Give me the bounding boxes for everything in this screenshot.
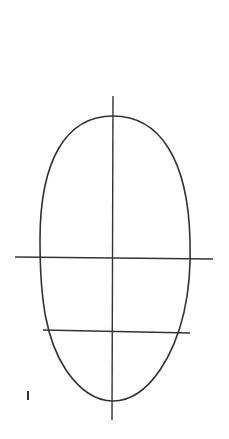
face-oval-diagram (0, 0, 229, 439)
horizontal-eye-line (15, 257, 213, 259)
horizontal-nose-line (43, 330, 190, 333)
